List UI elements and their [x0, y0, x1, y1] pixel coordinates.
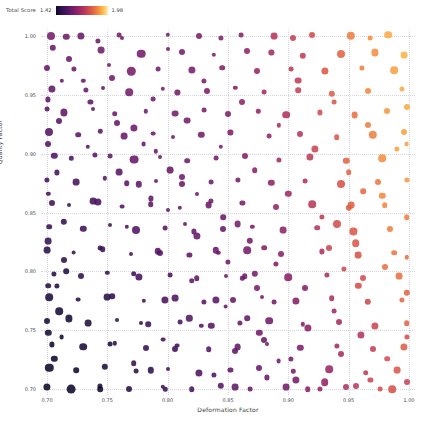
scatter-point[interactable]	[295, 87, 301, 93]
scatter-point[interactable]	[214, 156, 219, 161]
scatter-point[interactable]	[209, 179, 214, 184]
scatter-point[interactable]	[388, 385, 396, 393]
scatter-point[interactable]	[387, 226, 393, 232]
scatter-point[interactable]	[404, 177, 409, 182]
scatter-point[interactable]	[158, 155, 162, 159]
scatter-point[interactable]	[218, 382, 224, 388]
scatter-point[interactable]	[45, 364, 53, 372]
scatter-point[interactable]	[166, 367, 170, 371]
scatter-point[interactable]	[168, 272, 173, 277]
scatter-point[interactable]	[347, 32, 355, 40]
scatter-point[interactable]	[239, 32, 244, 37]
scatter-point[interactable]	[163, 225, 168, 230]
scatter-point[interactable]	[156, 66, 161, 71]
scatter-point[interactable]	[45, 329, 51, 335]
scatter-point[interactable]	[49, 200, 55, 206]
scatter-point[interactable]	[384, 108, 390, 114]
scatter-point[interactable]	[256, 365, 262, 371]
scatter-point[interactable]	[52, 271, 57, 276]
scatter-point[interactable]	[285, 190, 291, 196]
scatter-point[interactable]	[121, 133, 128, 140]
scatter-point[interactable]	[143, 345, 149, 351]
scatter-point[interactable]	[189, 278, 195, 284]
scatter-point[interactable]	[321, 68, 328, 75]
scatter-point[interactable]	[211, 372, 216, 377]
scatter-point[interactable]	[239, 99, 245, 105]
scatter-point[interactable]	[47, 32, 55, 40]
scatter-point[interactable]	[343, 157, 349, 163]
scatter-point[interactable]	[208, 322, 214, 328]
scatter-point[interactable]	[64, 269, 70, 275]
scatter-point[interactable]	[332, 99, 337, 104]
scatter-point[interactable]	[148, 201, 154, 207]
scatter-point[interactable]	[360, 275, 366, 281]
scatter-point[interactable]	[65, 315, 72, 322]
scatter-point[interactable]	[108, 223, 112, 227]
scatter-point[interactable]	[359, 65, 364, 70]
scatter-point[interactable]	[198, 132, 204, 138]
scatter-point[interactable]	[341, 266, 346, 271]
scatter-point[interactable]	[48, 85, 55, 92]
scatter-point[interactable]	[101, 86, 105, 90]
scatter-point[interactable]	[163, 387, 167, 391]
scatter-point[interactable]	[304, 324, 311, 331]
scatter-point[interactable]	[160, 337, 165, 342]
scatter-point[interactable]	[297, 131, 303, 137]
scatter-point[interactable]	[97, 386, 103, 392]
scatter-point[interactable]	[195, 369, 202, 376]
scatter-point[interactable]	[326, 245, 332, 251]
scatter-point[interactable]	[399, 297, 404, 302]
scatter-point[interactable]	[378, 387, 383, 392]
scatter-point[interactable]	[271, 300, 276, 305]
scatter-point[interactable]	[51, 153, 57, 159]
scatter-point[interactable]	[252, 167, 258, 173]
scatter-point[interactable]	[119, 204, 124, 209]
scatter-point[interactable]	[346, 170, 352, 176]
scatter-point[interactable]	[365, 122, 371, 128]
scatter-point[interactable]	[372, 49, 379, 56]
scatter-point[interactable]	[183, 222, 187, 226]
scatter-point[interactable]	[332, 309, 337, 314]
scatter-point[interactable]	[141, 142, 146, 147]
scatter-point[interactable]	[124, 180, 130, 186]
scatter-point[interactable]	[125, 89, 133, 97]
scatter-point[interactable]	[333, 220, 341, 228]
scatter-point[interactable]	[166, 208, 170, 212]
scatter-point[interactable]	[44, 177, 49, 182]
scatter-point[interactable]	[370, 346, 376, 352]
scatter-point[interactable]	[103, 176, 107, 180]
scatter-point[interactable]	[67, 203, 71, 207]
scatter-point[interactable]	[81, 78, 85, 82]
scatter-point[interactable]	[220, 226, 226, 232]
scatter-point[interactable]	[302, 285, 308, 291]
scatter-point[interactable]	[144, 109, 148, 113]
scatter-point[interactable]	[260, 295, 264, 299]
scatter-point[interactable]	[148, 367, 154, 373]
scatter-point[interactable]	[178, 206, 182, 210]
scatter-point[interactable]	[76, 297, 81, 302]
scatter-point[interactable]	[305, 386, 311, 392]
scatter-point[interactable]	[365, 299, 371, 305]
scatter-point[interactable]	[228, 130, 233, 135]
scatter-point[interactable]	[291, 369, 295, 373]
scatter-point[interactable]	[352, 239, 360, 247]
scatter-point[interactable]	[384, 356, 390, 362]
scatter-point[interactable]	[44, 247, 51, 254]
scatter-point[interactable]	[172, 110, 179, 117]
scatter-point[interactable]	[172, 295, 179, 302]
scatter-point[interactable]	[355, 282, 361, 288]
scatter-point[interactable]	[46, 293, 54, 301]
scatter-point[interactable]	[112, 111, 118, 117]
scatter-point[interactable]	[161, 87, 165, 91]
scatter-point[interactable]	[297, 345, 303, 351]
scatter-point[interactable]	[393, 367, 400, 374]
scatter-point[interactable]	[278, 251, 284, 257]
scatter-point[interactable]	[404, 379, 410, 385]
scatter-point[interactable]	[264, 375, 269, 380]
scatter-point[interactable]	[44, 65, 50, 71]
scatter-point[interactable]	[314, 225, 320, 231]
scatter-point[interactable]	[107, 63, 111, 67]
scatter-point[interactable]	[165, 33, 169, 37]
scatter-point[interactable]	[244, 246, 252, 254]
scatter-point[interactable]	[59, 335, 64, 340]
